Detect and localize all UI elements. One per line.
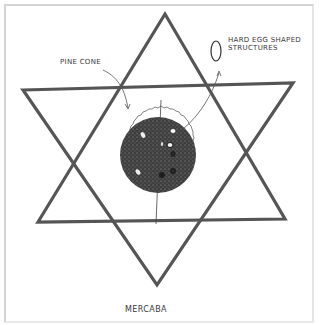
egg-arrow	[183, 73, 219, 129]
egg-spot	[167, 143, 173, 148]
pinecone-label: PINE CONE	[60, 58, 101, 66]
egg-spot	[159, 172, 165, 178]
egg-spot	[171, 152, 175, 157]
egg-oval-icon	[211, 41, 221, 61]
diagram-title: MERCABA	[125, 306, 167, 314]
egg-structures-label: HARD EGG SHAPED STRUCTURES	[228, 36, 308, 52]
egg-spot	[171, 129, 176, 133]
egg-spot	[171, 169, 176, 174]
egg-spot	[161, 142, 163, 146]
